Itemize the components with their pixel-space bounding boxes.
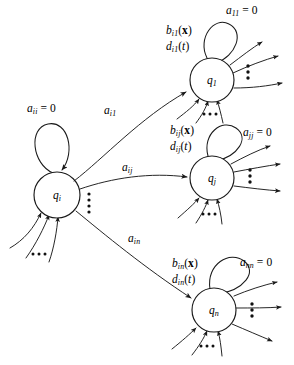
delay-label-d-ij: dij(t) [170, 141, 192, 153]
ellipsis-qn-out [250, 302, 253, 317]
self-loop-q-1 [204, 22, 237, 63]
node-label-q-j: qj [208, 173, 216, 185]
incoming-arrow-q-1-3 [217, 100, 223, 123]
incoming-arrow-q-1-1 [177, 99, 199, 119]
edge-label-a-in: ain [128, 233, 140, 245]
ellipsis-qi-in [32, 253, 47, 256]
self-loop-q-i [35, 124, 69, 173]
incoming-arrow-q-j-3 [217, 199, 222, 224]
incoming-arrow-q-i-2 [26, 215, 49, 258]
edge-label-a-ij: aij [122, 162, 132, 174]
outgoing-arrow-q-n-2 [236, 307, 281, 308]
ellipsis-qn-in [200, 345, 215, 348]
ellipsis-qj-in [202, 213, 217, 216]
ellipsis-qj-out [248, 168, 251, 183]
node-group-q-1 [177, 22, 282, 123]
incoming-arrow-q-i-3 [49, 217, 58, 262]
node-group-q-j [178, 125, 280, 224]
outgoing-arrow-q-n-3 [232, 324, 272, 341]
ellipsis-qi-out [87, 192, 90, 213]
node-label-q-n: qn [209, 305, 219, 317]
outgoing-arrow-q-1-3 [234, 83, 282, 88]
self-loop-label-a-jj: ajj = 0 [243, 127, 272, 139]
outgoing-arrow-q-1-1 [230, 42, 262, 65]
incoming-arrow-q-j-1 [178, 198, 199, 218]
diagram-canvas [0, 0, 294, 365]
node-label-q-i: qi [53, 190, 61, 202]
outgoing-arrow-q-j-1 [231, 146, 270, 164]
incoming-arrow-q-n-3 [218, 331, 222, 356]
node-label-q-1: q1 [207, 75, 217, 87]
delay-label-d-in: din(t) [172, 274, 195, 286]
outgoing-arrow-q-1-2 [233, 56, 278, 73]
incoming-arrow-q-j-2 [196, 200, 208, 223]
edge-i-to-j[interactable] [80, 175, 187, 189]
edge-label-a-i1: ai1 [104, 105, 116, 117]
rate-label-b-in: bin(x) [172, 258, 198, 270]
ellipsis-q1-in [203, 113, 218, 116]
outgoing-arrow-q-j-2 [234, 164, 280, 172]
outgoing-arrow-q-n-1 [234, 282, 277, 296]
ellipsis-q1-out [246, 64, 249, 79]
rate-label-b-i1: bi1(x) [166, 25, 192, 37]
outgoing-arrow-q-j-3 [234, 186, 280, 191]
incoming-arrow-q-1-2 [196, 101, 208, 123]
incoming-arrow-q-n-2 [192, 331, 207, 355]
self-loop-label-a-nn: ann = 0 [240, 257, 272, 269]
delay-label-d-i1: di1(t) [166, 41, 189, 53]
state-transition-diagram: qi q1 qj qn aii = 0 a11 = 0 ajj = 0 ann … [0, 0, 294, 365]
rate-label-b-ij: bij(x) [170, 125, 194, 137]
self-loop-label-a-11: a11 = 0 [226, 5, 258, 17]
incoming-arrow-q-n-1 [172, 328, 196, 349]
self-loop-label-a-ii: aii = 0 [27, 103, 56, 115]
node-group-q-i [10, 124, 91, 262]
